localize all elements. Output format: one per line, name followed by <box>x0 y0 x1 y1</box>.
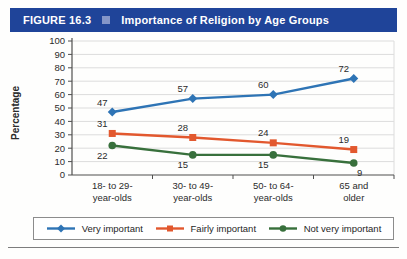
circle-marker-icon <box>108 142 116 150</box>
circle-marker-icon <box>269 151 277 159</box>
figure-16-3: FIGURE 16.3 Importance of Religion by Ag… <box>0 0 407 259</box>
y-tick-label: 0 <box>60 169 65 180</box>
square-marker-icon <box>189 134 196 141</box>
legend-label: Very important <box>82 223 143 234</box>
value-label: 60 <box>258 79 269 90</box>
legend-entry-not-very-important: Not very important <box>268 223 382 234</box>
legend-square-icon <box>155 223 185 234</box>
y-tick-label: 60 <box>54 89 65 100</box>
y-tick-label: 50 <box>54 102 65 113</box>
y-axis-label: Percentage <box>10 86 21 140</box>
y-tick-label: 80 <box>54 62 65 73</box>
y-tick-label: 100 <box>49 35 65 46</box>
legend-diamond-icon <box>46 223 76 234</box>
y-tick-label: 20 <box>54 143 65 154</box>
chart-svg: Percentage 010203040506070809010018- to … <box>10 33 397 215</box>
y-tick-label: 30 <box>54 129 65 140</box>
value-label: 9 <box>357 167 362 178</box>
circle-marker-icon <box>189 151 197 159</box>
legend-label: Not very important <box>304 223 382 234</box>
square-marker-icon <box>109 130 116 137</box>
y-tick-label: 90 <box>54 49 65 60</box>
y-tick-label: 70 <box>54 76 65 87</box>
header-square-icon <box>102 16 110 24</box>
diamond-marker-icon <box>269 90 278 99</box>
legend-circle-icon <box>268 223 298 234</box>
legend-label: Fairly important <box>191 223 256 234</box>
value-label: 28 <box>177 122 188 133</box>
value-label: 15 <box>258 159 269 170</box>
legend-entry-very-important: Very important <box>46 223 143 234</box>
legend: Very importantFairly importantNot very i… <box>33 217 394 240</box>
square-marker-icon <box>270 139 277 146</box>
value-label: 57 <box>177 83 188 94</box>
bottom-rule <box>8 247 399 248</box>
y-tick-label: 10 <box>54 156 65 167</box>
y-tick-label: 40 <box>54 116 65 127</box>
x-category-labels: 18- to 29-year-olds30- to 49-year-olds50… <box>92 180 368 203</box>
x-category-label: 65 andolder <box>339 180 368 203</box>
value-label: 72 <box>338 63 349 74</box>
circle-marker-icon <box>350 159 358 167</box>
value-label: 31 <box>97 118 108 129</box>
diamond-marker-icon <box>108 108 117 117</box>
figure-title: Importance of Religion by Age Groups <box>121 14 329 26</box>
value-label: 15 <box>177 159 188 170</box>
figure-header: FIGURE 16.3 Importance of Religion by Ag… <box>10 8 397 32</box>
value-label: 19 <box>338 134 349 145</box>
value-label: 47 <box>97 97 108 108</box>
figure-label: FIGURE 16.3 <box>23 14 91 26</box>
x-category-label: 30- to 49-year-olds <box>172 180 213 203</box>
x-category-label: 18- to 29-year-olds <box>92 180 133 203</box>
value-label: 22 <box>97 150 108 161</box>
square-marker-icon <box>350 146 357 153</box>
value-label: 24 <box>258 127 269 138</box>
legend-entry-fairly-important: Fairly important <box>155 223 256 234</box>
x-category-label: 50- to 64-year-olds <box>253 180 294 203</box>
chart-area: Percentage 010203040506070809010018- to … <box>10 33 397 215</box>
diamond-marker-icon <box>188 94 197 103</box>
